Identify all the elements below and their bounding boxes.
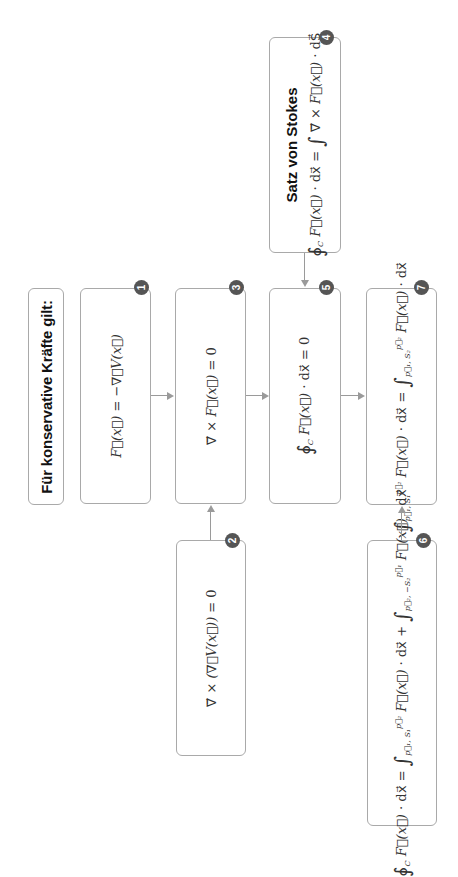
badge-4: 4	[319, 30, 334, 45]
arrowhead-4-to-5	[301, 280, 309, 287]
badge-2: 2	[225, 533, 240, 548]
arrow-1-to-3	[151, 395, 168, 396]
arrow-5-to-7	[341, 395, 359, 396]
arrowhead-2-to-3	[207, 505, 215, 512]
box-4-stokes-theorem: Satz von Stokes ∮C F⃗(x⃗) · dx⃗ = ∫ ∇⃗ ×…	[269, 37, 341, 253]
arrow-6-to-7	[401, 513, 402, 540]
box-7-path-independence: ∫p⃗₁, S₁p⃗₂ F⃗(x⃗) · dx⃗ = ∫p⃗₁, S₂p⃗₂ F…	[366, 288, 437, 505]
box-1-force-potential: F⃗(x⃗) = −∇⃗V(x⃗)	[80, 288, 151, 504]
arrowhead-5-to-7	[358, 392, 365, 400]
formula-5: ∮C F⃗(x⃗) · dx⃗ = 0	[293, 337, 317, 456]
diagram-title: Für konservative Kräfte gilt:	[38, 300, 55, 493]
formula-3: ∇⃗ × F⃗(x⃗) = 0	[203, 347, 218, 445]
badge-5: 5	[319, 280, 334, 295]
arrow-4-to-5	[304, 253, 305, 280]
box-2-curl-of-gradient: ∇⃗ × (∇⃗V(x⃗)) = 0	[176, 540, 246, 756]
box-5-closed-loop-zero: ∮C F⃗(x⃗) · dx⃗ = 0	[269, 288, 341, 504]
stokes-heading: Satz von Stokes	[283, 33, 300, 257]
formula-6: ∮C F⃗(x⃗) · dx⃗ = ∫p⃗₁, S₁p⃗₂ F⃗(x⃗) · d…	[390, 489, 414, 876]
box-3-curl-zero: ∇⃗ × F⃗(x⃗) = 0	[175, 288, 246, 504]
arrowhead-3-to-5	[262, 392, 269, 400]
badge-7: 7	[414, 280, 429, 295]
arrow-3-to-5	[246, 395, 263, 396]
badge-3: 3	[229, 280, 244, 295]
box-6-loop-split: ∮C F⃗(x⃗) · dx⃗ = ∫p⃗₁, S₁p⃗₂ F⃗(x⃗) · d…	[367, 540, 437, 826]
title-box: Für konservative Kräfte gilt:	[28, 288, 64, 505]
formula-1: F⃗(x⃗) = −∇⃗V(x⃗)	[108, 334, 123, 458]
arrowhead-6-to-7	[398, 506, 406, 513]
formula-2: ∇⃗ × (∇⃗V(x⃗)) = 0	[204, 589, 219, 706]
badge-1: 1	[134, 280, 149, 295]
arrowhead-1-to-3	[167, 392, 174, 400]
formula-4: Satz von Stokes ∮C F⃗(x⃗) · dx⃗ = ∫ ∇⃗ ×…	[283, 33, 328, 257]
badge-6: 6	[416, 533, 431, 548]
arrow-2-to-3	[210, 512, 211, 540]
